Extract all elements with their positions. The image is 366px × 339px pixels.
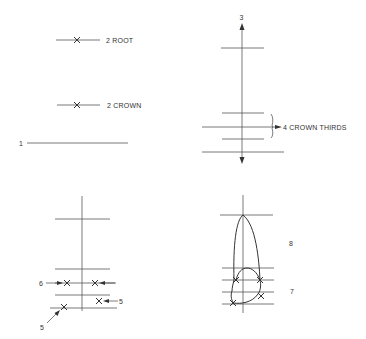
outline-upper-label: 8 xyxy=(289,240,293,247)
arrow-right-icon xyxy=(275,125,282,129)
contact-label: 6 xyxy=(39,280,43,287)
panel-top-right: 3 4 CROWN THIRDS xyxy=(202,14,347,164)
height-label-right: 5 xyxy=(119,298,123,305)
outline-lower-label: 7 xyxy=(290,288,294,295)
height-label-left: 5 xyxy=(40,324,44,331)
brace-icon xyxy=(271,114,273,138)
arrow-down-icon xyxy=(240,157,245,164)
arrow-left-icon xyxy=(103,299,109,303)
crown-thirds-label: 4 CROWN THIRDS xyxy=(283,124,347,131)
crown-label: 2 CROWN xyxy=(107,102,141,109)
panel-bottom-right: 8 7 xyxy=(220,195,294,313)
root-outline xyxy=(231,215,260,303)
crown-curve xyxy=(236,268,260,280)
root-label: 2 ROOT xyxy=(106,37,134,44)
arrow-line xyxy=(47,313,57,323)
panel-bottom-left: 6 5 5 xyxy=(39,196,123,331)
arrow-right-icon xyxy=(57,281,63,285)
arrow-left-icon xyxy=(99,281,105,285)
panel-top-left: 2 ROOT 2 CROWN 1 xyxy=(19,37,141,148)
axis-label: 3 xyxy=(240,14,244,21)
height-mark-left-x-icon xyxy=(61,304,67,310)
tooth-drawing-diagram: 2 ROOT 2 CROWN 1 3 4 CROWN THIRDS xyxy=(0,0,366,339)
height-mark-right-x-icon xyxy=(96,298,102,304)
reference-line-label: 1 xyxy=(19,140,23,147)
arrow-up-icon xyxy=(240,23,245,30)
